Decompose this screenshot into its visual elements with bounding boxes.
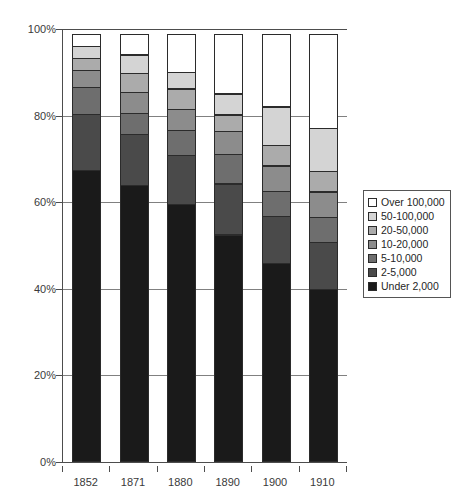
bar-segment [72, 87, 101, 115]
bar-segment [72, 170, 101, 462]
legend-item[interactable]: Under 2,000 [368, 279, 445, 293]
legend-item-label: 2-5,000 [381, 266, 417, 279]
y-axis-tick-label: 100% [8, 23, 56, 35]
x-axis-tick-mark [204, 466, 205, 472]
legend-item[interactable]: 2-5,000 [368, 265, 445, 279]
bar-segment [120, 134, 149, 186]
y-axis: 0%20%40%60%80%100% [0, 29, 56, 462]
bar-1900 [262, 29, 291, 462]
legend-item-label: 20-50,000 [381, 224, 428, 237]
bar-segment [72, 46, 101, 59]
bar-segment [120, 73, 149, 92]
legend-item[interactable]: 10-20,000 [368, 237, 445, 251]
bar-1890 [214, 29, 243, 462]
x-axis-tick-label: 1900 [263, 476, 287, 488]
y-axis-tick-label: 40% [8, 283, 56, 295]
bar-1880 [167, 29, 196, 462]
bar-segment [167, 204, 196, 462]
bar-segment [309, 192, 338, 218]
bar-segment [120, 34, 149, 56]
legend-item[interactable]: Over 100,000 [368, 195, 445, 209]
y-axis-tick-label: 20% [8, 369, 56, 381]
x-axis-tick-mark [346, 466, 347, 472]
legend-item[interactable]: 20-50,000 [368, 223, 445, 237]
x-axis-tick-mark [62, 466, 63, 472]
legend-swatch-icon [368, 198, 377, 207]
y-axis-tick-label: 60% [8, 196, 56, 208]
x-axis-tick-mark [299, 466, 300, 472]
y-axis-tick-label: 0% [8, 456, 56, 468]
x-axis-tick-label: 1880 [168, 476, 192, 488]
legend-item-label: Under 2,000 [381, 280, 439, 293]
bar-segment [167, 89, 196, 111]
bar-segment [72, 58, 101, 71]
bar-segment [214, 34, 243, 95]
gridline [63, 289, 347, 290]
legend-swatch-icon [368, 240, 377, 249]
gridline [63, 202, 347, 203]
bar-segment [214, 131, 243, 155]
bar-segment [262, 263, 291, 462]
gridline [63, 116, 347, 117]
gridline [63, 29, 347, 30]
bar-1852 [72, 29, 101, 462]
bar-segment [214, 94, 243, 116]
bar-segment [309, 171, 338, 193]
bar-segment [214, 235, 243, 462]
y-axis-tick-label: 80% [8, 110, 56, 122]
bar-segment [214, 154, 243, 184]
legend-swatch-icon [368, 268, 377, 277]
bar-segment [167, 155, 196, 205]
x-axis-tick-mark [109, 466, 110, 472]
bar-segment [72, 70, 101, 87]
bar-segment [167, 34, 196, 73]
legend-item-label: 50-100,000 [381, 210, 434, 223]
x-axis-tick-label: 1890 [215, 476, 239, 488]
legend-swatch-icon [368, 212, 377, 221]
bar-segment [262, 191, 291, 217]
bar-segment [309, 128, 338, 171]
legend-swatch-icon [368, 226, 377, 235]
bar-segment [262, 166, 291, 192]
bar-segment [309, 242, 338, 290]
x-axis-tick-label: 1852 [73, 476, 97, 488]
plot-area [62, 29, 347, 463]
gridline [63, 375, 347, 376]
legend-item-label: 5-10,000 [381, 252, 422, 265]
legend-item[interactable]: 5-10,000 [368, 251, 445, 265]
bar-segment [167, 130, 196, 156]
bar-segment [120, 185, 149, 462]
legend-item-label: Over 100,000 [381, 196, 445, 209]
x-axis-tick-label: 1871 [121, 476, 145, 488]
bar-segment [262, 216, 291, 264]
bar-segment [72, 114, 101, 170]
bar-segment [120, 113, 149, 135]
legend-swatch-icon [368, 282, 377, 291]
stacked-bar-chart: 0%20%40%60%80%100% 185218711880189019001… [0, 0, 472, 504]
bar-1910 [309, 29, 338, 462]
legend-item[interactable]: 50-100,000 [368, 209, 445, 223]
bar-segment [309, 34, 338, 129]
x-axis-tick-mark [251, 466, 252, 472]
bar-segment [262, 145, 291, 167]
bar-segment [262, 34, 291, 108]
bar-segment [120, 55, 149, 74]
chart-legend: Over 100,00050-100,00020-50,00010-20,000… [363, 190, 451, 298]
bar-segment [167, 109, 196, 131]
bar-segment [309, 217, 338, 243]
x-axis-tick-label: 1910 [310, 476, 334, 488]
legend-item-label: 10-20,000 [381, 238, 428, 251]
bar-segment [309, 289, 338, 462]
bar-segment [72, 34, 101, 47]
bar-segment [120, 92, 149, 114]
legend-swatch-icon [368, 254, 377, 263]
bar-segment [214, 184, 243, 236]
bar-segment [262, 107, 291, 146]
bar-segment [214, 115, 243, 132]
bar-segment [167, 72, 196, 89]
x-axis: 185218711880189019001910 [62, 466, 346, 496]
x-axis-tick-mark [157, 466, 158, 472]
bar-1871 [120, 29, 149, 462]
